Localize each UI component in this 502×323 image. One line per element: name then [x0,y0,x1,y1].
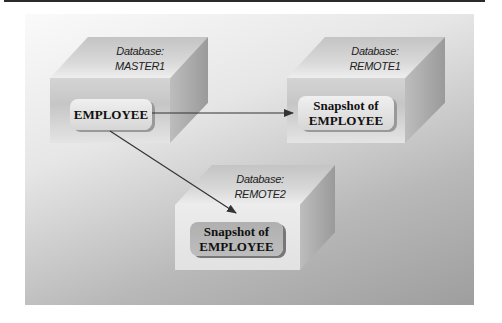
replication-arrows [0,0,502,323]
arrow-master1-to-remote2 [110,131,236,213]
